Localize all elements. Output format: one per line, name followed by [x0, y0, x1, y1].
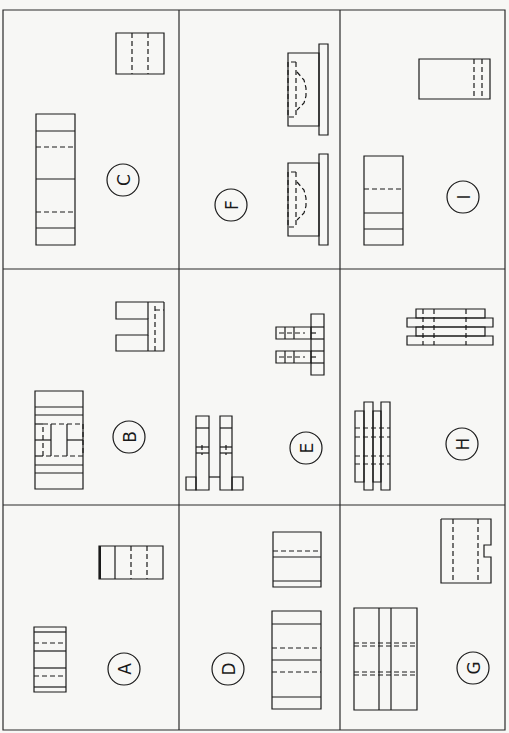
problem-c: C [36, 33, 164, 245]
label-i: I [454, 194, 474, 199]
label-d: D [219, 662, 239, 675]
label-c-badge: C [107, 164, 139, 196]
drawing-sheet: C F [0, 0, 509, 733]
outer-border [3, 10, 505, 730]
view-d-upper [273, 532, 321, 587]
view-f-lower [288, 154, 328, 245]
label-d-badge: D [212, 653, 244, 685]
view-d-lower [272, 611, 321, 709]
view-i-upper [419, 59, 490, 99]
label-b: B [120, 431, 140, 443]
problem-b: B [35, 302, 164, 489]
label-f: F [222, 200, 242, 210]
label-a-badge: A [108, 653, 140, 685]
label-h-badge: H [446, 428, 478, 460]
label-g-badge: G [457, 652, 489, 684]
view-h-upper [407, 309, 493, 345]
view-f-upper [288, 44, 328, 135]
label-b-badge: B [113, 421, 145, 453]
view-a-upper [99, 546, 163, 579]
label-i-badge: I [447, 181, 479, 213]
view-i-lower [364, 156, 403, 245]
view-b-lower [35, 391, 83, 489]
view-c-top-right [116, 33, 164, 74]
problem-h: H [355, 309, 493, 490]
view-h-lower [355, 402, 390, 490]
problem-a: A [34, 546, 163, 692]
problem-f: F [215, 44, 328, 245]
problem-i: I [364, 59, 490, 245]
view-c-main [36, 114, 75, 245]
label-c: C [114, 174, 134, 186]
label-f-badge: F [215, 189, 247, 221]
grid-frame [3, 10, 505, 730]
view-b-upper [116, 302, 164, 351]
label-e-badge: E [290, 432, 322, 464]
problem-d: D [212, 532, 321, 709]
view-e-lower [186, 416, 243, 490]
problem-g: G [354, 519, 491, 710]
label-h: H [453, 438, 473, 451]
label-g: G [464, 661, 484, 674]
view-g-upper [441, 519, 491, 583]
label-a: A [115, 663, 135, 675]
view-a-lower [34, 627, 66, 692]
view-e-upper [276, 314, 324, 375]
label-e: E [297, 443, 317, 454]
view-g-lower [354, 608, 417, 710]
problem-e: E [186, 314, 324, 490]
